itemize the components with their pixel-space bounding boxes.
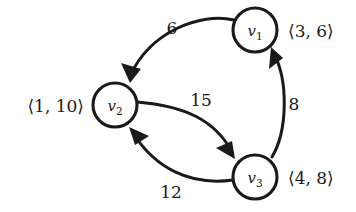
node-label-subscript: 3 [256,177,263,189]
node-v1[interactable]: v1 [233,8,277,52]
node-pair-label-v2: ⟨1, 10⟩ [27,96,84,116]
edge-weight-v2-v3: 15 [190,90,212,110]
node-v2[interactable]: v2 [93,83,137,127]
arrowhead-icon [121,63,141,83]
node-pair-label-v1: ⟨3, 6⟩ [288,21,334,41]
edge-curve [137,102,232,152]
edge-v3-to-v1[interactable]: 8 [269,47,299,157]
edge-weight-v1-v2: 6 [167,18,178,38]
node-group: v1 v2 v3 [93,8,277,199]
node-label-subscript: 1 [256,30,263,42]
edge-curve [133,133,233,181]
edge-curve [130,18,234,76]
edge-weight-v3-v1: 8 [289,94,300,114]
edge-v2-to-v3[interactable]: 15 [137,90,235,159]
graph-canvas: 6 15 8 12 v1 [0,0,356,212]
node-v3[interactable]: v3 [233,155,277,199]
arrowhead-icon [269,47,283,69]
arrowhead-icon [129,127,149,145]
edge-v3-to-v2[interactable]: 12 [129,127,233,202]
node-label-subscript: 2 [116,105,123,117]
edge-v1-to-v2[interactable]: 6 [121,18,234,83]
edge-curve [272,54,284,157]
edge-weight-v3-v2: 12 [160,182,182,202]
graph-figure: 6 15 8 12 v1 [0,0,356,212]
node-pair-label-v3: ⟨4, 8⟩ [288,168,334,188]
